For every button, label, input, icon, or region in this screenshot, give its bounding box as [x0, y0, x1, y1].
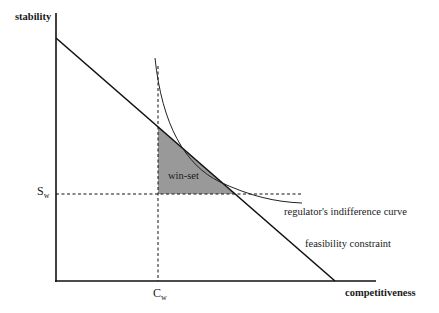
cw-label-main: C: [153, 286, 161, 300]
cw-label: Cw: [153, 286, 167, 301]
sw-label: Sw: [37, 184, 49, 199]
y-axis-label: stability: [15, 11, 51, 22]
win-set-label: win-set: [168, 170, 199, 181]
indifference-curve-label: regulator's indifference curve: [284, 206, 407, 217]
sw-label-main: S: [37, 184, 44, 198]
diagram-canvas: [0, 0, 439, 313]
feasibility-constraint-line: [56, 38, 335, 281]
cw-label-sub: w: [161, 293, 167, 302]
x-axis-label: competitiveness: [345, 287, 416, 298]
sw-label-sub: w: [44, 191, 50, 200]
feasibility-constraint-label: feasibility constraint: [305, 238, 391, 249]
